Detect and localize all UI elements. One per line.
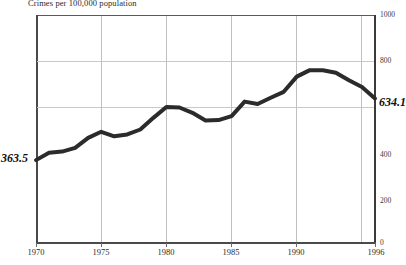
x-axis-line — [36, 242, 376, 244]
y-axis-right-line — [374, 15, 376, 244]
gridline-x-1990 — [296, 16, 297, 242]
gridline-x-1975 — [101, 16, 102, 242]
y-tick-label-800: 800 — [380, 57, 391, 65]
x-tick-label-1970: 1970 — [21, 247, 51, 257]
y-tick-label-1000: 1000 — [380, 11, 395, 19]
x-tick-label-1996: 1996 — [361, 247, 391, 257]
annotation-end-value: 634.1 — [379, 96, 406, 109]
x-tick-label-1990: 1990 — [281, 247, 311, 257]
chart-container: Crimes per 100,000 population 1000 800 4… — [0, 0, 406, 265]
x-tick-label-1980: 1980 — [151, 247, 181, 257]
gridline-y-800 — [37, 61, 374, 62]
gridline-x-1980 — [166, 16, 167, 242]
gridline-y-600 — [37, 107, 374, 108]
chart-title: Crimes per 100,000 population — [28, 0, 137, 9]
y-axis-left-line — [36, 15, 38, 244]
x-tick-label-1985: 1985 — [216, 247, 246, 257]
plot-area — [36, 15, 375, 243]
y-tick-label-200: 200 — [380, 197, 391, 205]
y-tick-label-0: 0 — [380, 239, 384, 247]
gridline-x-1985 — [231, 16, 232, 242]
annotation-start-value: 363.5 — [1, 152, 28, 165]
gridline-x-1995 — [361, 16, 362, 242]
x-tick-label-1975: 1975 — [86, 247, 116, 257]
y-tick-label-400: 400 — [380, 151, 391, 159]
